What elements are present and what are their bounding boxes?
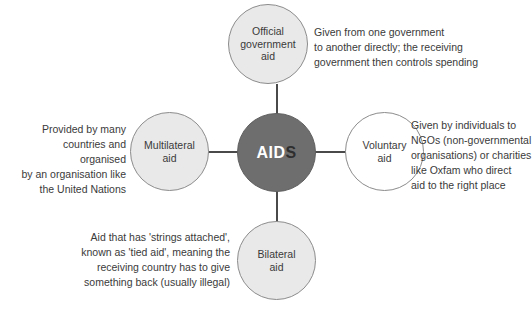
caption-bilateral-aid: Aid that has 'strings attached', known a… [50,230,230,290]
node-official-government-aid[interactable]: Official government aid [228,4,308,84]
caption-multilateral-aid: Provided by many countries and organised… [14,122,126,197]
aid-types-diagram: AIDS Official government aid Multilatera… [0,0,532,313]
node-official-government-aid-label: Official government aid [234,25,301,63]
node-multilateral-aid-label: Multilateral aid [138,139,201,165]
aid-hub-text-primary: AID [256,144,285,161]
aid-hub-text-secondary: S [285,144,296,161]
aid-hub-circle: AIDS [237,113,316,192]
node-voluntary-aid-label: Voluntary aid [357,139,413,165]
caption-voluntary-aid: Given by individuals to NGOs (non-govern… [411,118,532,193]
node-bilateral-aid-label: Bilateral aid [252,248,302,274]
aid-hub-text: AIDS [256,143,296,163]
node-multilateral-aid[interactable]: Multilateral aid [130,112,209,191]
caption-official-government-aid: Given from one government to another dir… [314,25,529,70]
node-bilateral-aid[interactable]: Bilateral aid [237,221,316,300]
